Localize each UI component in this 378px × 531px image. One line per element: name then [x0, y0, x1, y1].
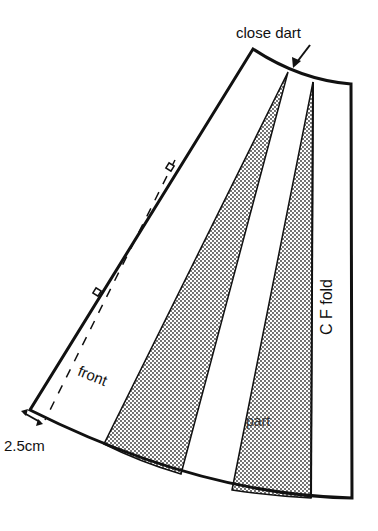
arrow-icon: [292, 45, 310, 68]
seam-allowance-label: 2.5cm: [4, 437, 45, 454]
pattern-diagram: [0, 0, 378, 531]
shaded-wedge-right: [232, 82, 313, 498]
part-label: part: [246, 413, 270, 429]
close-dart-label: close dart: [236, 24, 301, 41]
cf-fold-label: C F fold: [318, 279, 336, 335]
